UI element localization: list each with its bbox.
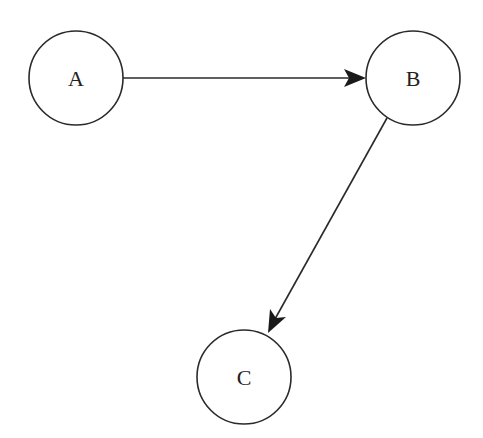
- edge-a-to-b: [123, 69, 366, 87]
- graph-canvas: A B C: [0, 0, 483, 438]
- edge-b-to-c: [268, 118, 387, 333]
- node-label: A: [68, 66, 84, 91]
- node-c[interactable]: C: [197, 330, 291, 424]
- arrowhead-icon: [268, 309, 286, 333]
- node-a[interactable]: A: [29, 31, 123, 125]
- edge-line: [275, 118, 387, 319]
- node-b[interactable]: B: [366, 31, 460, 125]
- node-label: B: [406, 66, 421, 91]
- node-label: C: [237, 365, 252, 390]
